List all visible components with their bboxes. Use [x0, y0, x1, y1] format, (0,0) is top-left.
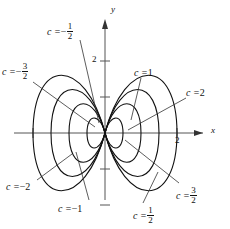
label-c-one-value: 1 [148, 67, 153, 78]
label-c-neg-two-lead: c = [6, 181, 20, 192]
leader-c-half [143, 172, 158, 203]
label-c-neg-two-value: 2 [25, 181, 30, 192]
y-axis-label: y [111, 5, 115, 14]
label-c-neg-three-halves-sign: − [16, 66, 22, 77]
label-c-neg-half: c =−12 [47, 22, 74, 41]
denominator: 2 [67, 31, 74, 41]
label-c-neg-half-lead: c = [47, 26, 61, 37]
denominator: 2 [22, 71, 29, 81]
denominator: 2 [190, 195, 197, 205]
x-tick-label-2: 2 [175, 136, 180, 145]
label-c-two-value: 2 [200, 87, 205, 98]
label-c-neg-one-value: 1 [77, 203, 82, 214]
label-c-half-fraction: 12 [147, 206, 154, 225]
leader-c-three-halves [125, 140, 179, 183]
label-c-half: c =12 [133, 206, 154, 225]
numerator: 1 [147, 206, 154, 215]
leader-c-neg-half [80, 40, 99, 123]
x-axis-label: x [211, 126, 215, 135]
label-c-two: c =2 [186, 88, 205, 98]
label-c-neg-half-sign: − [61, 26, 67, 37]
y-axis-arrowhead [102, 19, 108, 29]
label-c-neg-half-fraction: 12 [67, 22, 74, 41]
label-c-three-halves-fraction: 32 [190, 186, 197, 205]
label-c-three-halves-lead: c = [176, 190, 190, 201]
label-c-three-halves: c =32 [176, 186, 197, 205]
label-c-neg-two: c =−2 [6, 182, 30, 192]
label-c-two-lead: c = [186, 87, 200, 98]
numerator: 3 [190, 186, 197, 195]
x-axis-arrowhead [194, 130, 203, 136]
label-c-neg-three-halves: c =−32 [2, 62, 29, 81]
leader-c-one [131, 78, 141, 120]
label-c-neg-three-halves-fraction: 32 [22, 62, 29, 81]
y-tick-label-2: 2 [92, 55, 97, 64]
denominator: 2 [147, 215, 154, 225]
label-c-half-lead: c = [133, 210, 147, 221]
label-c-one: c =1 [134, 68, 153, 78]
label-c-one-lead: c = [134, 67, 148, 78]
label-c-neg-one: c =−1 [58, 204, 82, 214]
label-c-neg-one-lead: c = [58, 203, 72, 214]
numerator: 3 [22, 62, 29, 71]
label-c-neg-three-halves-lead: c = [2, 66, 16, 77]
numerator: 1 [67, 22, 74, 31]
